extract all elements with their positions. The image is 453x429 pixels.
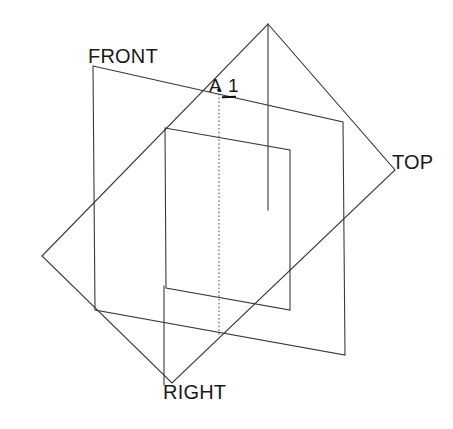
label-point-a1: A1 xyxy=(209,76,239,95)
label-right-plane: RIGHT xyxy=(163,382,226,402)
label-front-plane: FRONT xyxy=(88,46,158,66)
projection-planes-diagram: FRONT TOP RIGHT A1 xyxy=(0,0,453,429)
point-label-index: 1 xyxy=(228,75,239,96)
right-plane-outline xyxy=(165,128,290,310)
label-top-plane: TOP xyxy=(392,152,433,172)
point-label-letter: A xyxy=(209,75,222,96)
diagram-canvas xyxy=(0,0,453,429)
